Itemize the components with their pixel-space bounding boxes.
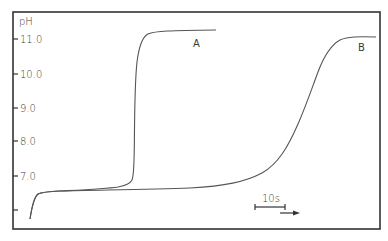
curve-a-label: A xyxy=(193,38,200,49)
y-tick-label-10: 10.0 xyxy=(20,69,42,80)
y-tick-label-7: 7.0 xyxy=(20,171,36,182)
time-direction-arrow-icon xyxy=(280,211,300,216)
scale-bar-label: 10s xyxy=(262,193,280,204)
y-tick-label-9: 9.0 xyxy=(20,103,36,114)
curve-b-label: B xyxy=(358,42,365,53)
ph-titration-chart: pH 11.0 10.0 9.0 8.0 7.0 A B 10s xyxy=(0,0,388,241)
y-tick-label-11: 11.0 xyxy=(20,34,42,45)
y-tick-label-8: 8.0 xyxy=(20,136,36,147)
curve-b xyxy=(30,37,376,219)
y-axis-label: pH xyxy=(19,16,33,27)
